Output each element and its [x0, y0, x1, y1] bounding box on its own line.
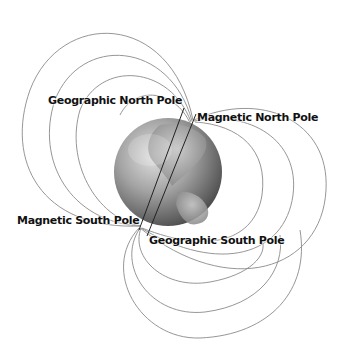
diagram-canvas [0, 0, 338, 346]
label-magnetic-south-pole: Magnetic South Pole [17, 214, 139, 227]
label-geographic-south-pole: Geographic South Pole [149, 234, 284, 247]
magnetic-field-diagram: Geographic North Pole Magnetic North Pol… [0, 0, 338, 346]
earth-globe [114, 118, 222, 226]
label-geographic-north-pole: Geographic North Pole [48, 94, 182, 107]
label-magnetic-north-pole: Magnetic North Pole [197, 111, 318, 124]
